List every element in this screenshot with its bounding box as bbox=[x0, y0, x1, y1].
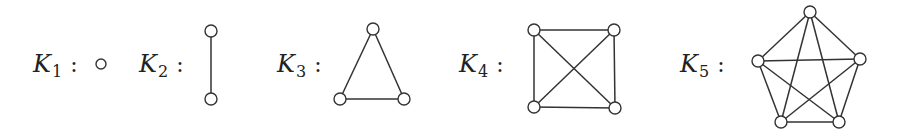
label-letter: K bbox=[276, 50, 297, 78]
vertex-node bbox=[804, 6, 816, 18]
graph-edge bbox=[373, 29, 404, 99]
graph-label: K3: bbox=[276, 50, 322, 81]
label-subscript: 2 bbox=[158, 62, 168, 81]
label-subscript: 4 bbox=[478, 62, 488, 81]
graph-k2: K2: bbox=[138, 25, 217, 105]
vertex-node bbox=[752, 55, 764, 67]
complete-graphs-diagram: K1:K2:K3:K4:K5: bbox=[0, 0, 903, 137]
vertex-node bbox=[854, 53, 866, 65]
graph-k5: K5: bbox=[679, 6, 866, 128]
label-colon: : bbox=[176, 52, 183, 77]
graph-label: K5: bbox=[679, 50, 725, 81]
graph-edge bbox=[534, 107, 615, 108]
vertex-node bbox=[608, 24, 620, 36]
label-letter: K bbox=[138, 50, 159, 78]
graph-edge bbox=[781, 12, 810, 122]
vertex-node bbox=[367, 23, 379, 35]
graph-k3: K3: bbox=[276, 23, 410, 105]
label-colon: : bbox=[717, 52, 724, 77]
label-colon: : bbox=[70, 52, 77, 77]
graph-edge bbox=[810, 12, 860, 59]
vertex-node bbox=[205, 93, 217, 105]
graph-edge bbox=[758, 59, 860, 61]
graph-k4: K4: bbox=[458, 24, 621, 114]
vertex-node bbox=[205, 25, 217, 37]
vertex-node bbox=[609, 102, 621, 114]
graph-label: K1: bbox=[32, 50, 78, 81]
vertex-node bbox=[96, 59, 106, 69]
graph-edge bbox=[758, 12, 810, 61]
vertex-node bbox=[528, 101, 540, 113]
label-subscript: 5 bbox=[699, 62, 709, 81]
label-colon: : bbox=[314, 52, 321, 77]
label-letter: K bbox=[679, 50, 700, 78]
label-subscript: 3 bbox=[296, 62, 306, 81]
graph-edge bbox=[839, 59, 860, 122]
graph-edge bbox=[614, 30, 615, 108]
label-colon: : bbox=[496, 52, 503, 77]
vertex-node bbox=[334, 93, 346, 105]
graph-label: K4: bbox=[458, 50, 504, 81]
graph-label: K2: bbox=[138, 50, 184, 81]
graph-edge bbox=[810, 12, 839, 122]
label-subscript: 1 bbox=[52, 62, 62, 81]
graph-edge bbox=[340, 29, 373, 99]
graph-k1: K1: bbox=[32, 50, 106, 81]
vertex-node bbox=[398, 93, 410, 105]
label-letter: K bbox=[458, 50, 479, 78]
graph-edge bbox=[781, 59, 860, 122]
vertex-node bbox=[833, 116, 845, 128]
vertex-node bbox=[775, 116, 787, 128]
vertex-node bbox=[528, 24, 540, 36]
label-letter: K bbox=[32, 50, 53, 78]
